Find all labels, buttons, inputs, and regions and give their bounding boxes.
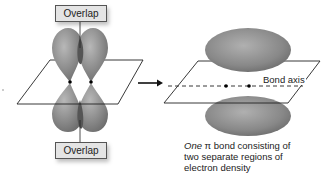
caption-line-2: two separate regions of — [184, 151, 324, 162]
caption-emphasis: One — [184, 140, 202, 151]
left-plane — [17, 60, 143, 104]
p-orbital-left-bottom-lobe — [52, 83, 82, 132]
pi-bond-lower-region — [205, 96, 291, 136]
caption: One π bond consisting of two separate re… — [184, 140, 324, 173]
overlap-label-top: Overlap — [55, 5, 107, 22]
nucleus-left — [68, 80, 72, 84]
pi-bond-upper-region — [205, 28, 291, 72]
caption-line-3: electron density — [184, 162, 324, 173]
caption-line-1: One π bond consisting of — [184, 140, 324, 151]
nucleus-a — [224, 84, 228, 88]
bond-axis-label: Bond axis — [262, 74, 306, 85]
caption-line-1-rest: bond consisting of — [211, 140, 290, 151]
overlap-label-bottom: Overlap — [55, 142, 107, 159]
nucleus-right — [89, 80, 93, 84]
right-arrow-icon — [138, 80, 163, 87]
left-panel — [2, 21, 143, 142]
nucleus-b — [247, 84, 251, 88]
